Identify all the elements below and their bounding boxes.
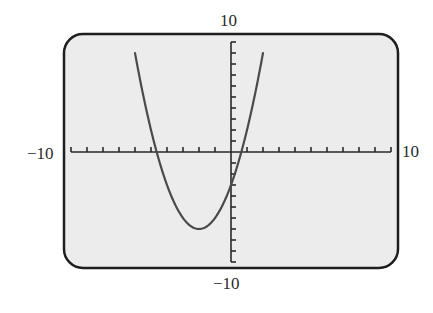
graphing-calculator-screen xyxy=(0,0,433,313)
